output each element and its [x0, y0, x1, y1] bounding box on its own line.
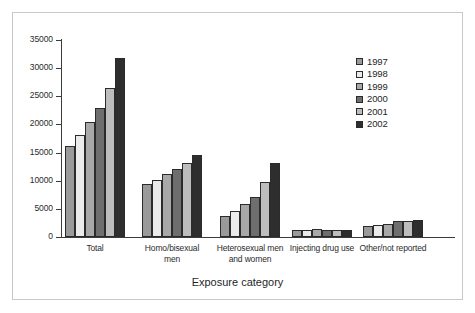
legend-label: 2002: [367, 119, 388, 129]
y-axis-tick-labels: 05000100001500020000250003000035000: [0, 0, 53, 313]
bar: [302, 230, 312, 237]
legend-item: 2000: [356, 94, 388, 105]
legend-label: 2001: [367, 107, 388, 117]
bar: [115, 58, 125, 237]
legend-label: 2000: [367, 94, 388, 104]
legend-item: 1998: [356, 69, 388, 80]
bar: [142, 184, 152, 237]
bar-group: [142, 40, 202, 237]
bar: [270, 163, 280, 237]
y-axis-tick-label: 5000: [1, 204, 53, 213]
bar: [220, 216, 230, 237]
bar: [192, 155, 202, 237]
bar: [260, 182, 270, 237]
bar: [182, 163, 192, 237]
bar: [105, 88, 115, 237]
legend-swatch-icon: [356, 58, 363, 65]
bar: [240, 204, 250, 237]
y-axis-tick-mark: [56, 237, 62, 238]
bar: [383, 224, 393, 238]
bar: [85, 122, 95, 237]
bar: [322, 230, 332, 237]
x-axis-category-label: Other/not reported: [348, 243, 438, 254]
legend-item: 1997: [356, 56, 388, 67]
plot-area: [62, 40, 455, 237]
bar: [250, 197, 260, 237]
legend-label: 1998: [367, 69, 388, 79]
legend-swatch-icon: [356, 71, 363, 78]
bar: [292, 230, 302, 237]
bar: [373, 225, 383, 237]
y-axis-tick-label: 20000: [1, 119, 53, 128]
legend-item: 2002: [356, 119, 388, 130]
bar: [363, 226, 373, 237]
y-axis-tick-label: 35000: [1, 35, 53, 44]
bar-group: [65, 40, 125, 237]
x-axis-line: [56, 237, 455, 238]
x-axis-category-label-line: men: [127, 254, 217, 265]
bar: [393, 221, 403, 237]
x-axis-category-label: Homo/bisexualmen: [127, 243, 217, 264]
y-axis-tick-label: 30000: [1, 63, 53, 72]
x-axis-category-label-line: Other/not reported: [348, 243, 438, 254]
legend-swatch-icon: [356, 121, 363, 128]
legend-label: 1997: [367, 57, 388, 67]
bar: [95, 108, 105, 237]
legend-item: 2001: [356, 106, 388, 117]
legend-label: 1999: [367, 82, 388, 92]
bar: [152, 180, 162, 237]
legend-swatch-icon: [356, 108, 363, 115]
x-axis-title: Exposure category: [0, 276, 475, 288]
bar: [230, 211, 240, 237]
bar: [75, 135, 85, 237]
bar: [172, 169, 182, 237]
bar: [312, 229, 322, 237]
bar: [413, 220, 423, 237]
y-axis-tick-label: 0: [1, 232, 53, 241]
bar: [162, 174, 172, 237]
y-axis-tick-label: 15000: [1, 148, 53, 157]
chart-figure: 05000100001500020000250003000035000 Tota…: [0, 0, 475, 313]
bar-group: [292, 40, 352, 237]
x-axis-category-label-line: Homo/bisexual: [127, 243, 217, 254]
bar: [403, 221, 413, 237]
legend-item: 1999: [356, 81, 388, 92]
y-axis-tick-label: 10000: [1, 176, 53, 185]
legend-swatch-icon: [356, 96, 363, 103]
legend-swatch-icon: [356, 83, 363, 90]
bar: [332, 230, 342, 237]
x-axis-category-label-line: and women: [205, 254, 295, 265]
bar-group: [220, 40, 280, 237]
y-axis-tick-label: 25000: [1, 91, 53, 100]
bar: [65, 146, 75, 237]
bar: [342, 230, 352, 237]
chart-legend: 199719981999200020012002: [356, 56, 388, 130]
